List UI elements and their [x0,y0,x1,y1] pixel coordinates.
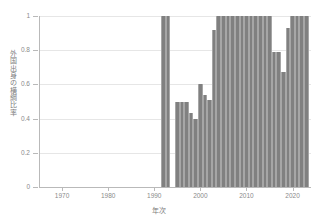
y-tick-label: 0.4 [0,115,30,122]
y-axis-line [39,16,40,187]
x-tick [108,187,109,191]
y-tick-label: 0.2 [0,150,30,157]
bar [304,16,309,187]
x-tick-label: 1990 [147,193,161,200]
x-axis-title: 年次 [0,207,318,214]
x-axis-line [39,187,311,188]
y-axis-title: 外国出身の横綱比率 [9,50,18,116]
x-tick-label: 1980 [101,193,115,200]
y-tick [33,119,38,120]
bar-series [39,16,311,187]
x-tick [154,187,155,191]
plot-area [39,16,311,187]
y-tick [33,153,38,154]
x-tick [246,187,247,191]
y-tick [33,84,38,85]
x-tick-label: 1970 [55,193,69,200]
y-tick-label: 1 [0,13,30,20]
x-tick-label: 2010 [239,193,253,200]
x-tick-label: 2000 [193,193,207,200]
y-tick [33,187,38,188]
x-tick [200,187,201,191]
y-tick [33,50,38,51]
y-tick [33,16,38,17]
y-tick-label: 0 [0,184,30,191]
x-tick-label: 2020 [285,193,299,200]
x-tick [62,187,63,191]
x-tick [293,187,294,191]
bar [166,16,171,187]
chart-figure: 00.20.40.60.81 197019801990200020102020 … [0,0,318,224]
